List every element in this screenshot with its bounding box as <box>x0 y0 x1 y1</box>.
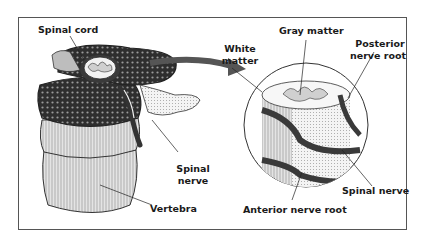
label-spinal-nerve-left-1: Spinal <box>173 163 213 174</box>
label-anterior-root: Anterior nerve root <box>243 204 347 215</box>
label-posterior-root-1: Posterior <box>350 38 410 49</box>
label-spinal-nerve-right: Spinal nerve <box>342 185 409 196</box>
label-vertebra: Vertebra <box>150 203 197 214</box>
magnified-spinal-cord <box>244 63 368 195</box>
label-spinal-nerve-left-2: nerve <box>173 175 213 186</box>
label-spinal-cord: Spinal cord <box>38 24 98 35</box>
label-white-matter-2: matter <box>220 55 260 66</box>
label-gray-matter: Gray matter <box>279 25 344 36</box>
label-white-matter-1: White <box>220 43 260 54</box>
label-posterior-root-2: nerve root <box>346 50 410 61</box>
vertebra-drawing <box>38 45 200 212</box>
spine-illustration <box>0 0 424 239</box>
